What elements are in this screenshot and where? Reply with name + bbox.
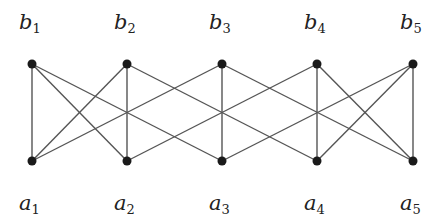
label-b2: b2 xyxy=(114,12,136,35)
label-b5: b5 xyxy=(400,12,422,35)
label-a5: a5 xyxy=(400,193,421,216)
label-b1: b1 xyxy=(19,12,41,35)
node-b3 xyxy=(218,60,227,69)
label-a1: a1 xyxy=(19,193,40,216)
node-b4 xyxy=(313,60,322,69)
node-a5 xyxy=(409,157,418,166)
node-b1 xyxy=(28,60,37,69)
edges xyxy=(32,64,413,161)
label-a3: a3 xyxy=(209,193,230,216)
node-b2 xyxy=(123,60,132,69)
label-b4: b4 xyxy=(304,12,326,35)
node-b5 xyxy=(409,60,418,69)
node-a4 xyxy=(313,157,322,166)
label-a4: a4 xyxy=(304,193,325,216)
node-a2 xyxy=(123,157,132,166)
node-a1 xyxy=(28,157,37,166)
label-a2: a2 xyxy=(114,193,135,216)
label-b3: b3 xyxy=(209,12,231,35)
node-a3 xyxy=(218,157,227,166)
